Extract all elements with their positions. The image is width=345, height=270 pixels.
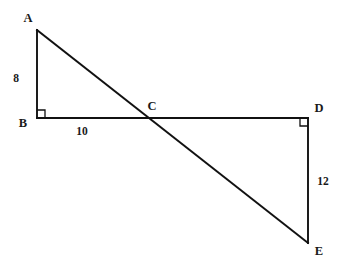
right-angle-marker-d <box>300 118 308 126</box>
vertex-label-b: B <box>19 116 27 130</box>
length-label-de: 12 <box>317 175 329 187</box>
geometry-canvas: A B C D E 8 10 12 <box>0 0 345 270</box>
vertex-label-c: C <box>147 99 156 113</box>
vertex-label-d: D <box>314 101 323 115</box>
vertex-label-a: A <box>23 11 32 25</box>
length-label-bc: 10 <box>76 125 88 137</box>
length-label-ab: 8 <box>13 72 19 84</box>
vertex-label-e: E <box>315 244 323 258</box>
geometry-diagram: A B C D E 8 10 12 <box>0 0 345 270</box>
right-angle-marker-b <box>37 110 45 118</box>
